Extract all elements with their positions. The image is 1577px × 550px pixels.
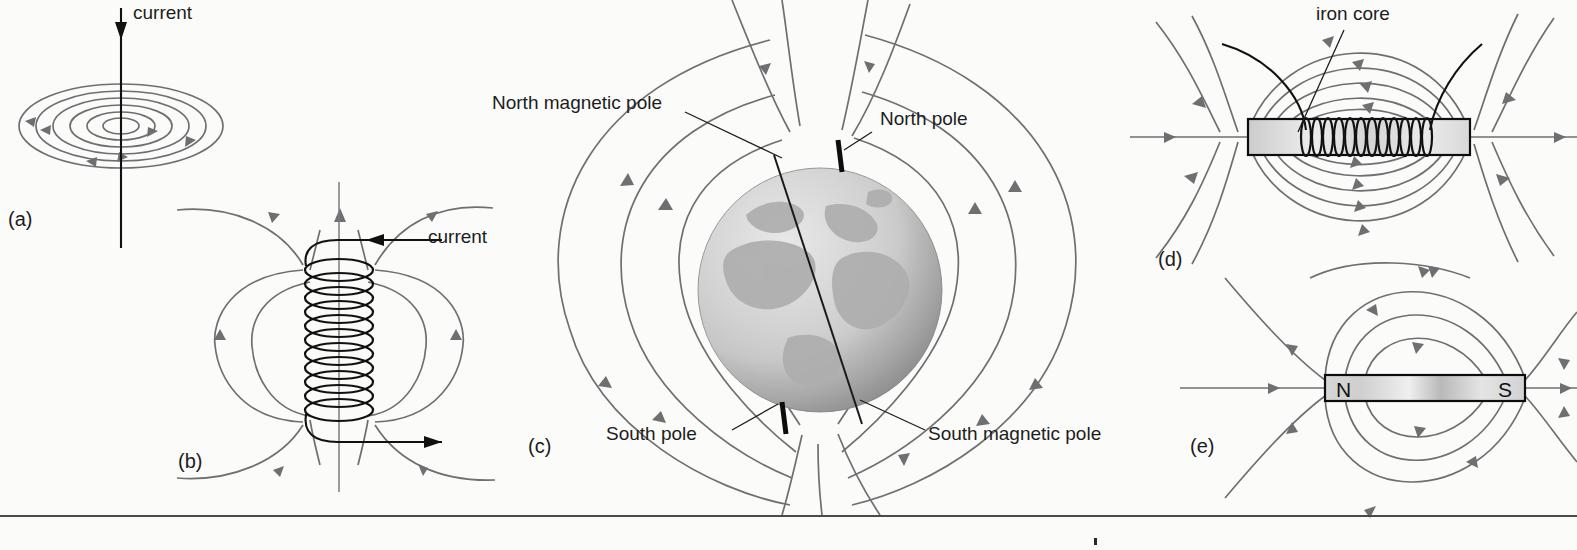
panel-label-e: (e) — [1190, 435, 1214, 458]
coil-lead-right-d — [1430, 44, 1482, 130]
current-arrow-bottom-b — [424, 436, 442, 448]
panel-e-graphic: N S — [1180, 250, 1577, 515]
current-lead-bottom-b — [305, 414, 442, 442]
panel-d-graphic — [1130, 0, 1577, 280]
field-arrowheads-a — [25, 117, 196, 167]
panel-c: North magnetic pole North pole South pol… — [470, 0, 1170, 515]
panel-label-b: (b) — [178, 450, 202, 473]
south-pole-letter: S — [1498, 378, 1512, 401]
bottom-divider — [0, 515, 1577, 517]
current-label-a: current — [133, 2, 192, 24]
north-pole-leader — [844, 132, 872, 150]
north-pole-letter: N — [1336, 378, 1351, 401]
panel-e: N S (e) — [1180, 250, 1577, 515]
current-arrow-a — [115, 22, 127, 40]
south-pole-label: South pole — [606, 423, 697, 445]
scan-artifact — [1094, 538, 1097, 545]
coil-lead-left-d — [1222, 44, 1306, 130]
panel-d: iron core (d) — [1130, 0, 1577, 280]
north-magnetic-pole-leader — [685, 112, 782, 158]
south-magnetic-pole-label: South magnetic pole — [928, 423, 1101, 445]
current-lead-top-b — [305, 240, 442, 266]
panel-label-c: (c) — [528, 435, 551, 458]
iron-core-bar — [1248, 119, 1470, 155]
bar-magnet-body — [1325, 375, 1525, 401]
panel-label-a: (a) — [8, 208, 32, 231]
panel-label-d: (d) — [1158, 248, 1182, 271]
north-magnetic-pole-label: North magnetic pole — [492, 92, 662, 114]
north-pole-label: North pole — [880, 108, 968, 130]
iron-core-label: iron core — [1316, 3, 1390, 25]
magnetism-figure: current (a) — [0, 0, 1577, 550]
current-arrow-top-b — [366, 234, 384, 246]
north-pole-marker — [838, 140, 842, 172]
earth-globe — [698, 155, 942, 424]
south-pole-leader — [732, 404, 778, 430]
field-arrowheads-d — [1164, 36, 1566, 278]
